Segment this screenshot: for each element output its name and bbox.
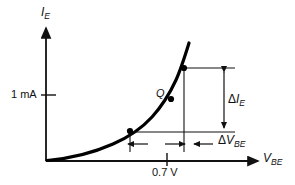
q-point-label: Q (156, 88, 165, 99)
diode-characteristic-curve (47, 43, 189, 161)
y-axis-label: IE (41, 6, 50, 18)
lower-point-marker (127, 128, 133, 134)
q-point-marker (168, 96, 174, 102)
delta-ie-label: ΔIE (228, 93, 245, 105)
upper-point-marker (181, 65, 187, 71)
x-axis-label: VBE (263, 152, 283, 164)
figure-canvas: IE VBE 1 mA 0.7 V Q ΔIE ΔVBE (0, 0, 295, 185)
diagram-svg (0, 0, 295, 185)
y-axis-tick-label-1ma: 1 mA (11, 89, 37, 100)
delta-vbe-label: ΔVBE (218, 134, 246, 146)
x-axis-tick-label-07v: 0.7 V (152, 167, 178, 178)
